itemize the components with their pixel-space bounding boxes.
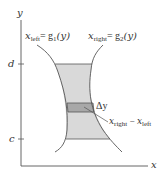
tick-label-d: d	[8, 59, 14, 69]
x-axis-label: x	[151, 160, 157, 170]
right-curve-eq: = g	[107, 30, 120, 41]
delta-y-label: Δy	[96, 101, 107, 111]
left-curve-arg: (y)	[57, 30, 70, 41]
tick-label-c: c	[9, 134, 15, 144]
region-between-curves-diagram: y x d c xleft= g1(y) xright= g2(y) Δy xr…	[0, 0, 164, 178]
width-label-op: −	[127, 116, 137, 126]
diagram-svg	[0, 0, 164, 178]
width-label-a-sub: right	[114, 120, 127, 128]
left-curve-g1	[37, 45, 67, 152]
width-label-b-sub: left	[142, 120, 151, 128]
right-curve-sub: right	[94, 35, 107, 43]
y-axis-label: y	[17, 8, 23, 18]
left-curve-label: xleft= g1(y)	[25, 31, 70, 43]
left-curve-eq: = g	[40, 30, 53, 41]
left-curve-sub: left	[31, 35, 40, 43]
right-curve-label: xright= g2(y)	[88, 31, 137, 43]
width-label: xright − xleft	[109, 117, 151, 128]
right-curve-arg: (y)	[124, 30, 137, 41]
